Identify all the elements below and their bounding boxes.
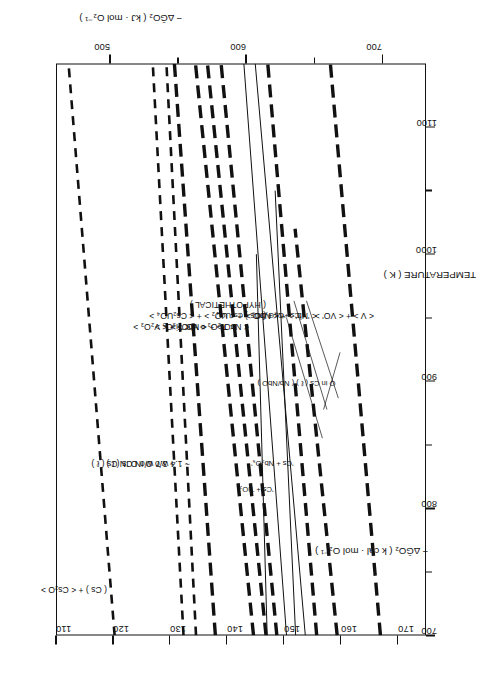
series-label: ( Cs ) + < Cs₂O > — [40, 584, 106, 594]
y-tick-label: 160 — [341, 623, 357, 633]
series-line — [207, 63, 266, 635]
x-tick-minor — [426, 317, 432, 318]
y-tick-major — [397, 635, 398, 644]
series-label: O in Cs ( ℓ ) ( Nb/NbO ) — [257, 379, 335, 388]
series-line — [221, 63, 277, 635]
y-tick-major — [226, 635, 227, 644]
series-line — [268, 63, 317, 635]
series-sublabel: ( HYPOTHETICAL ) — [190, 299, 266, 309]
y2-tick-major — [109, 54, 110, 63]
y2-tick-label: 700 — [366, 41, 382, 51]
y-tick-label: 170 — [398, 623, 414, 633]
series-label: < V > + < VO' > — [315, 310, 374, 320]
rotated-figure-frame: 70080090010001100 TEMPERATURE ( K ) 1101… — [0, 0, 480, 697]
x-axis-title: TEMPERATURE ( K ) — [383, 269, 476, 280]
y2-tick-major — [382, 54, 383, 63]
x-tick-label: 700 — [421, 625, 437, 635]
series-label: 'Cs + TiO₂' — [238, 485, 274, 494]
y-tick-label: 140 — [227, 623, 243, 633]
x-tick-minor — [426, 571, 432, 572]
series-label: 'Cs + Nb₂O₅' — [251, 459, 293, 468]
x-tick-minor — [426, 444, 432, 445]
x-tick-label: 1000 — [416, 244, 437, 254]
y-tick-label: 110 — [56, 624, 71, 634]
chart-figure: 70080090010001100 TEMPERATURE ( K ) 1101… — [0, 0, 480, 697]
y-tick-major — [169, 635, 170, 644]
x-tick-label: 900 — [421, 371, 437, 381]
series-line — [295, 228, 337, 635]
series-label: ~ 1.4 w/o O IN Cs ( ℓ ) — [106, 458, 190, 468]
y-axis-secondary-title: − ΔḠO₂ ( kJ · mol O₂⁻¹ ) — [79, 12, 182, 23]
y-tick-label: 150 — [284, 623, 300, 633]
y2-tick-label: 600 — [230, 41, 246, 51]
y-tick-major — [55, 635, 56, 644]
series-line — [69, 63, 115, 635]
figure-page: 70080090010001100 TEMPERATURE ( K ) 1101… — [0, 0, 480, 697]
series-line — [174, 63, 215, 635]
x-tick-label: 800 — [421, 498, 437, 508]
y2-tick-major — [245, 54, 246, 63]
y-tick-label: 130 — [170, 623, 186, 633]
y-tick-major — [340, 635, 341, 644]
y-tick-major — [283, 635, 284, 644]
x-tick-label: 1100 — [416, 117, 437, 127]
x-tick-minor — [426, 189, 432, 190]
y-tick-major — [112, 635, 113, 644]
y2-tick-label: 500 — [94, 41, 110, 51]
y-axis-primary-title: − ΔḠO₂ ( k cal · mol O₂⁻¹ ) — [315, 545, 428, 556]
series-line — [195, 63, 253, 635]
y2-tick-minor — [177, 58, 178, 64]
series-label: < NbO > + < NbO₂ > — [171, 321, 249, 331]
y2-tick-minor — [314, 58, 315, 64]
series-label: < 'Nb' > + < NbO > — [246, 310, 317, 320]
y-tick-label: 120 — [113, 623, 129, 633]
